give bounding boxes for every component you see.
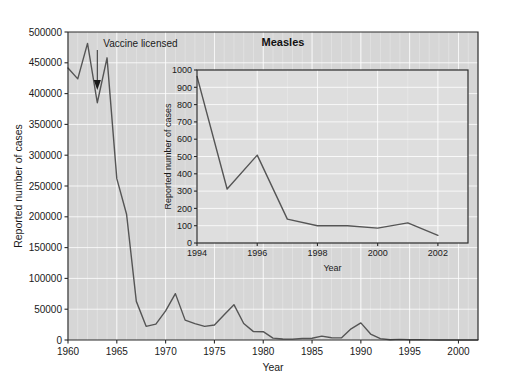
y-tick-label: 1000 (172, 65, 192, 75)
inset-chart: 1994199619982000200201002003004005006007… (163, 36, 468, 273)
y-tick-label: 250000 (29, 181, 63, 192)
y-tick-label: 0 (56, 335, 62, 346)
x-tick-label: 1965 (106, 346, 129, 357)
y-tick-label: 900 (177, 83, 192, 93)
y-tick-label: 700 (177, 117, 192, 127)
inset-y-axis-title: Reported number of cases (163, 103, 173, 210)
x-tick-label: 1985 (301, 346, 324, 357)
x-tick-label: 1996 (247, 248, 267, 258)
main-y-axis: 0500001000001500002000002500003000003500… (29, 27, 68, 346)
y-tick-label: 50000 (34, 304, 62, 315)
measles-chart-figure: 1960196519701975198019851990199520000500… (0, 0, 507, 390)
x-tick-label: 1975 (203, 346, 226, 357)
y-tick-label: 0 (187, 238, 192, 248)
x-tick-label: 1995 (399, 346, 422, 357)
y-tick-label: 800 (177, 100, 192, 110)
x-tick-label: 2000 (447, 346, 470, 357)
y-tick-label: 200 (177, 204, 192, 214)
inset-chart-title: Measles (262, 36, 305, 48)
x-tick-label: 1998 (307, 248, 327, 258)
y-tick-label: 400 (177, 169, 192, 179)
y-tick-label: 600 (177, 134, 192, 144)
y-tick-label: 400000 (29, 88, 63, 99)
x-tick-label: 1970 (154, 346, 177, 357)
y-tick-label: 150000 (29, 242, 63, 253)
y-tick-label: 200000 (29, 211, 63, 222)
main-y-axis-title: Reported number of cases (12, 124, 24, 248)
main-x-axis-title: Year (262, 361, 284, 373)
y-tick-label: 450000 (29, 57, 63, 68)
y-tick-label: 300000 (29, 150, 63, 161)
y-tick-label: 100000 (29, 273, 63, 284)
x-tick-label: 1980 (252, 346, 275, 357)
x-tick-label: 2002 (428, 248, 448, 258)
y-tick-label: 100 (177, 221, 192, 231)
y-tick-label: 500000 (29, 27, 63, 38)
vaccine-licensed-label: Vaccine licensed (103, 38, 177, 49)
x-tick-label: 1960 (57, 346, 80, 357)
y-tick-label: 300 (177, 186, 192, 196)
x-tick-label: 1990 (350, 346, 373, 357)
chart-canvas: 1960196519701975198019851990199520000500… (0, 0, 507, 390)
inset-x-axis-title: Year (323, 263, 341, 273)
y-tick-label: 500 (177, 152, 192, 162)
y-tick-label: 350000 (29, 119, 63, 130)
x-tick-label: 2000 (368, 248, 388, 258)
main-x-axis: 196019651970197519801985199019952000 (57, 340, 470, 357)
x-tick-label: 1994 (187, 248, 207, 258)
